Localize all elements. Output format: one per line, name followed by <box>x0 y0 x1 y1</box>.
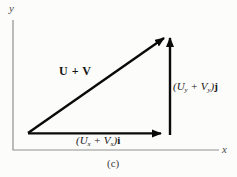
x-component-mid: + V <box>91 134 111 146</box>
x-component-unit: i <box>117 134 120 146</box>
y-component-open: (U <box>173 80 185 92</box>
figure-canvas: y x U + V (Uy + Vy)j (Ux + Vx)i (c) <box>0 0 237 177</box>
sum-vector <box>28 38 164 133</box>
y-component-label: (Uy + Vy)j <box>173 80 218 95</box>
x-axis-label: x <box>222 143 227 155</box>
x-component-open: (U <box>76 134 88 146</box>
vector-sum-label: U + V <box>59 65 91 78</box>
y-component-unit: j <box>214 80 218 92</box>
y-component-mid: + V <box>188 80 208 92</box>
y-axis-label: y <box>9 2 14 14</box>
figure-caption: (c) <box>107 157 119 169</box>
x-component-label: (Ux + Vx)i <box>76 134 120 149</box>
